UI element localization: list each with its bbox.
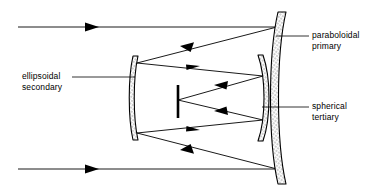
arrowhead-lower-to-focus: [214, 107, 228, 115]
label-paraboloidal-primary-line1: paraboloidal: [312, 30, 360, 41]
label-ellipsoidal-secondary: ellipsoidal secondary: [22, 71, 62, 93]
ray-secondary-lower-to-tertiary: [137, 120, 263, 133]
ray-secondary-upper-to-tertiary: [137, 63, 263, 76]
arrowhead-bottom-input: [85, 165, 99, 174]
label-spherical-tertiary-line2: tertiary: [312, 112, 347, 123]
tertiary-mirror: [258, 55, 269, 141]
arrowheads-secondary-to-tertiary: [186, 65, 200, 132]
label-paraboloidal-primary: paraboloidal primary: [312, 30, 360, 52]
ray-primary-top-to-secondary: [137, 27, 277, 63]
ray-secondary-to-tertiary: [137, 63, 263, 133]
arrowheads-primary-to-secondary: [180, 42, 194, 154]
label-ellipsoidal-secondary-line1: ellipsoidal: [22, 71, 62, 82]
primary-mirror-body: [271, 12, 287, 184]
secondary-mirror: [129, 56, 138, 140]
tertiary-mirror-body: [258, 55, 269, 141]
incoming-ray-arrowheads: [85, 23, 99, 174]
label-spherical-tertiary-line1: spherical: [312, 101, 347, 112]
label-spherical-tertiary: spherical tertiary: [312, 101, 347, 123]
label-paraboloidal-primary-line2: primary: [312, 41, 360, 52]
ray-tertiary-upper-to-focus: [178, 76, 263, 100]
incoming-rays: [18, 27, 277, 169]
ray-primary-to-secondary: [137, 27, 277, 169]
arrowheads-tertiary-to-focus: [214, 81, 228, 115]
ray-primary-bottom-to-secondary: [137, 133, 277, 169]
primary-mirror: [271, 12, 287, 184]
label-ellipsoidal-secondary-line2: secondary: [22, 82, 62, 93]
ray-tertiary-to-focus: [178, 76, 263, 120]
optical-diagram: paraboloidal primary spherical tertiary …: [0, 0, 382, 196]
arrowhead-top-input: [85, 23, 99, 32]
secondary-mirror-body: [129, 56, 138, 140]
